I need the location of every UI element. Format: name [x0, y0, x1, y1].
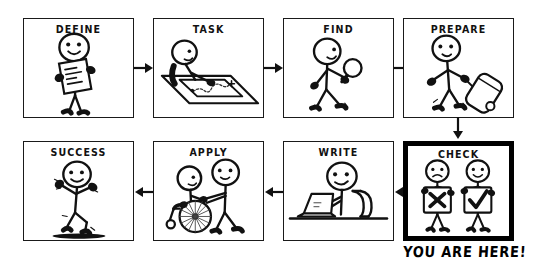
write-artwork — [284, 142, 393, 240]
arrow-task-to-find — [264, 60, 284, 76]
panel-find[interactable]: FIND — [283, 18, 394, 118]
task-artwork — [154, 19, 263, 117]
panel-check[interactable]: CHECK — [403, 141, 514, 241]
apply-artwork — [154, 142, 263, 240]
define-artwork — [24, 19, 133, 117]
panel-task[interactable]: TASK — [153, 18, 264, 118]
find-artwork — [284, 19, 393, 117]
arrow-prepare-to-check — [450, 117, 466, 140]
check-artwork — [408, 146, 509, 236]
panel-write[interactable]: WRITE — [283, 141, 394, 241]
arrow-define-to-task — [134, 60, 154, 76]
panel-apply[interactable]: APPLY — [153, 141, 264, 241]
panel-prepare[interactable]: PREPARE — [403, 18, 514, 118]
arrow-write-to-apply — [264, 184, 284, 200]
success-artwork — [24, 142, 133, 240]
you-are-here-caption: YOU ARE HERE! — [402, 243, 514, 260]
panel-success[interactable]: SUCCESS — [23, 141, 134, 241]
arrow-apply-to-success — [134, 184, 154, 200]
prepare-artwork — [404, 19, 513, 117]
flowchart-board: DEFINE — [0, 0, 537, 272]
panel-define[interactable]: DEFINE — [23, 18, 134, 118]
